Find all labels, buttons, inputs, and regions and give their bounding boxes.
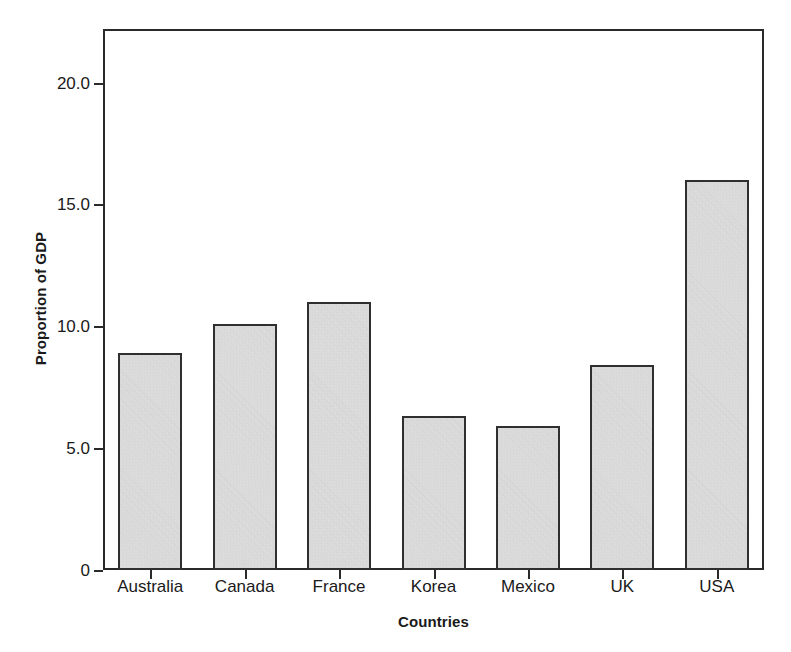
bar-chart: Proportion of GDP 05.010.015.020.0 Austr… (0, 0, 791, 652)
y-tick-label-10.0: 10.0 (34, 318, 90, 335)
y-tick-label-0: 0 (34, 562, 90, 579)
y-tick-label-20.0: 20.0 (34, 75, 90, 92)
bar-uk (590, 365, 654, 570)
x-tick-label-france: France (313, 578, 366, 595)
bar-usa (685, 180, 749, 570)
y-tick-label-5.0: 5.0 (34, 440, 90, 457)
y-tick-10.0 (94, 326, 103, 328)
y-tick-0 (94, 570, 103, 572)
x-axis-tick-labels: AustraliaCanadaFranceKoreaMexicoUKUSA (103, 578, 764, 608)
x-tick-label-usa: USA (699, 578, 734, 595)
x-tick-label-australia: Australia (117, 578, 183, 595)
y-tick-5.0 (94, 448, 103, 450)
bar-australia (118, 353, 182, 570)
bar-france (307, 302, 371, 570)
x-axis-title: Countries (103, 613, 764, 630)
plot-area (103, 29, 764, 570)
bar-mexico (496, 426, 560, 570)
y-tick-20.0 (94, 83, 103, 85)
x-tick-label-korea: Korea (411, 578, 456, 595)
y-tick-15.0 (94, 204, 103, 206)
y-axis-tick-labels: 05.010.015.020.0 (34, 0, 90, 652)
y-tick-label-15.0: 15.0 (34, 196, 90, 213)
x-tick-label-mexico: Mexico (501, 578, 555, 595)
bar-canada (213, 324, 277, 570)
bar-korea (402, 416, 466, 570)
x-tick-label-uk: UK (611, 578, 635, 595)
x-tick-label-canada: Canada (215, 578, 275, 595)
